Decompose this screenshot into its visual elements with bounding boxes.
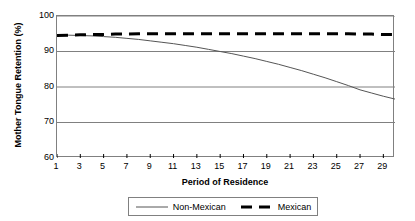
y-axis-title: Mother Tongue Retention (%) — [11, 10, 25, 160]
x-axis-tick-label: 11 — [164, 161, 182, 171]
series-layer — [57, 34, 395, 99]
x-axis-tick-label: 21 — [280, 161, 298, 171]
x-axis-tick-label: 27 — [350, 161, 368, 171]
x-axis-tick-label: 9 — [140, 161, 158, 171]
series-line — [57, 35, 395, 99]
x-axis-tick-label: 17 — [233, 161, 251, 171]
legend-entry-non-mexican: Non-Mexican — [135, 202, 226, 212]
y-axis-tick-label: 90 — [34, 46, 54, 55]
x-axis-title: Period of Residence — [56, 177, 394, 188]
legend-label-mexican: Mexican — [278, 202, 312, 212]
x-axis-tick-label: 13 — [187, 161, 205, 171]
x-axis-tick-label: 19 — [257, 161, 275, 171]
legend-label-non-mexican: Non-Mexican — [173, 202, 226, 212]
x-axis-tick-label: 5 — [94, 161, 112, 171]
x-axis-tick-labels: 1357911131517192123252729 — [56, 161, 394, 173]
x-axis-tick-label: 1 — [47, 161, 65, 171]
legend-swatch-line-dashed — [240, 202, 274, 212]
x-axis-tick-label: 25 — [327, 161, 345, 171]
legend-entry-mexican: Mexican — [240, 202, 312, 212]
series-line — [57, 34, 395, 36]
x-axis-tick-label: 23 — [303, 161, 321, 171]
x-axis-tick-label: 7 — [117, 161, 135, 171]
plot-canvas — [57, 16, 395, 158]
x-axis-tick-label: 3 — [70, 161, 88, 171]
y-axis-tick-label: 80 — [34, 82, 54, 91]
y-axis-tick-labels: 60708090100 — [32, 0, 54, 221]
y-axis-tick-label: 70 — [34, 117, 54, 126]
legend-swatch-line-solid — [135, 202, 169, 212]
plot-area — [56, 15, 394, 157]
x-axis-tick-label: 15 — [210, 161, 228, 171]
chart-figure: Mother Tongue Retention (%) 60708090100 … — [0, 0, 415, 221]
x-axis-tick-label: 29 — [373, 161, 391, 171]
chart-legend: Non-Mexican Mexican — [128, 197, 318, 216]
y-axis-tick-label: 100 — [34, 11, 54, 20]
